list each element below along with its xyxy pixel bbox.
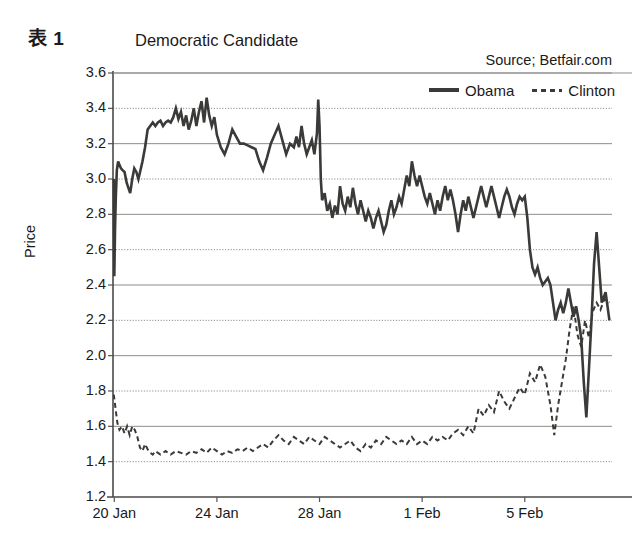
series-line-clinton: [114, 299, 610, 454]
x-axis-tick-label: 24 Jan: [195, 505, 239, 521]
x-axis-tick-labels: 20 Jan24 Jan28 Jan1 Feb5 Feb: [0, 505, 642, 529]
x-axis-tick-label: 28 Jan: [298, 505, 342, 521]
chart-figure: 表 1 Democratic Candidate Source; Betfair…: [0, 0, 642, 550]
plot-area: [0, 0, 642, 550]
series-line-obama: [114, 98, 610, 418]
x-axis-tick-label: 1 Feb: [404, 505, 441, 521]
x-axis-tick-label: 20 Jan: [93, 505, 137, 521]
x-axis-tick-label: 5 Feb: [506, 505, 543, 521]
